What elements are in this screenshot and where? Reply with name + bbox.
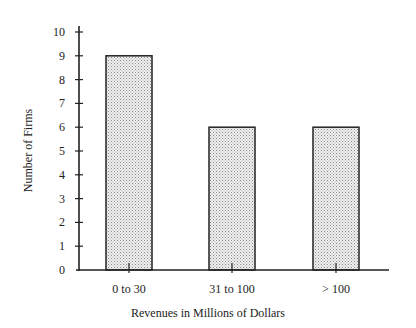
x-category-label: > 100 xyxy=(291,282,381,297)
y-tick-label: 3 xyxy=(45,192,65,207)
bar-1 xyxy=(209,127,255,270)
x-category-label: 31 to 100 xyxy=(187,282,277,297)
bar-0 xyxy=(106,56,152,270)
y-tick-label: 6 xyxy=(45,120,65,135)
y-tick-label: 7 xyxy=(45,96,65,111)
bars-group xyxy=(106,56,359,270)
y-tick-label: 5 xyxy=(45,144,65,159)
bar-2 xyxy=(313,127,359,270)
x-ticks xyxy=(129,263,336,273)
y-tick-label: 10 xyxy=(45,25,65,40)
y-tick-label: 8 xyxy=(45,73,65,88)
y-tick-label: 0 xyxy=(45,263,65,278)
x-axis-title: Revenues in Millions of Dollars xyxy=(0,306,416,321)
y-tick-label: 1 xyxy=(45,239,65,254)
y-axis-title: Number of Firms xyxy=(21,101,36,201)
y-tick-label: 9 xyxy=(45,49,65,64)
y-tick-label: 4 xyxy=(45,168,65,183)
y-tick-label: 2 xyxy=(45,215,65,230)
x-category-label: 0 to 30 xyxy=(84,282,174,297)
